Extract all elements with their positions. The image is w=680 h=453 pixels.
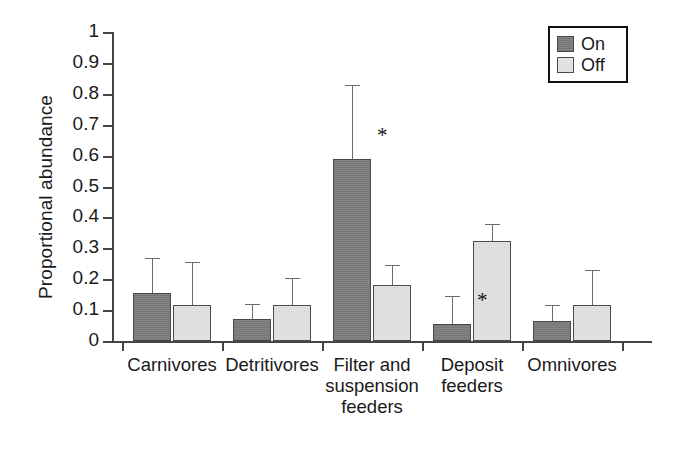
x-axis-tick [122,342,124,351]
legend-item-off: Off [557,54,619,75]
legend: On Off [548,26,628,83]
y-axis-tick-label: 0.6 [73,144,99,166]
y-axis-tick [103,279,112,281]
error-bar-cap [245,304,260,305]
x-axis-category-label: Carnivores [118,354,226,375]
error-bar-cap [185,262,200,263]
error-bar-line [552,305,553,320]
x-axis-tick [422,342,424,351]
legend-item-on: On [557,33,619,54]
error-bar-line [252,304,253,319]
x-axis-category-label-line: Omnivores [518,354,626,375]
x-axis-category-label-line: Detritivores [218,354,326,375]
x-axis-category-label-line: Carnivores [118,354,226,375]
y-axis-tick [103,125,112,127]
significance-asterisk: * [477,290,488,311]
y-axis-tick [103,248,112,250]
error-bar-line [192,262,193,305]
x-axis-category-label: Detritivores [218,354,326,375]
y-axis-tick [103,32,112,34]
y-axis-tick-label: 0 [88,329,99,351]
y-axis-tick-label: 0.1 [73,298,99,320]
x-axis-category-label: Omnivores [518,354,626,375]
chart-figure: Proportional abundance 00.10.20.30.40.50… [0,0,680,453]
error-bar-cap [385,265,400,266]
bar [433,324,471,341]
bar [273,305,311,341]
x-axis-category-label-line: suspension [318,375,426,396]
x-axis-tick [622,342,624,351]
y-axis-tick [103,217,112,219]
y-axis-tick [103,187,112,189]
x-axis-tick [322,342,324,351]
y-axis-line [112,32,114,342]
error-bar-line [452,296,453,324]
y-axis-tick-label: 0.7 [73,113,99,135]
legend-swatch-on-icon [557,36,574,52]
error-bar-cap [445,296,460,297]
bar [573,305,611,341]
error-bar-line [392,265,393,285]
error-bar-line [352,85,353,159]
y-axis-tick [103,94,112,96]
error-bar-cap [285,278,300,279]
bar [233,319,271,341]
error-bar-line [492,224,493,241]
error-bar-cap [345,85,360,86]
error-bar-cap [485,224,500,225]
error-bar-line [292,278,293,306]
error-bar-line [592,270,593,306]
y-axis-tick-label: 0.3 [73,236,99,258]
x-axis-category-label: Filter andsuspensionfeeders [318,354,426,417]
y-axis-tick-label: 0.5 [73,175,99,197]
plot-area: 00.10.20.30.40.50.60.70.80.91 ** Carnivo… [112,32,612,341]
legend-swatch-off-icon [557,57,574,73]
x-axis-category-label-line: Filter and [318,354,426,375]
significance-asterisk: * [377,125,388,146]
error-bar-cap [585,270,600,271]
y-axis-tick [103,310,112,312]
x-axis-tick [222,342,224,351]
x-axis-category-label-line: feeders [418,375,526,396]
y-axis-tick [103,63,112,65]
bar [173,305,211,341]
bar [533,321,571,341]
bar [373,285,411,341]
bar [333,159,371,341]
y-axis-tick-label: 0.2 [73,267,99,289]
y-axis-tick-label: 0.4 [73,205,99,227]
x-axis-category-label: Depositfeeders [418,354,526,396]
error-bar-cap [145,258,160,259]
y-axis-title: Proportional abundance [35,47,57,347]
error-bar-cap [545,305,560,306]
y-axis-tick-label: 0.8 [73,82,99,104]
y-axis-tick-label: 0.9 [73,51,99,73]
y-axis-tick-label: 1 [88,20,99,42]
y-axis-tick [103,156,112,158]
legend-label-off: Off [581,56,605,74]
x-axis-category-label-line: feeders [318,396,426,417]
x-axis-category-label-line: Deposit [418,354,526,375]
legend-label-on: On [581,35,605,53]
error-bar-line [152,258,153,294]
bar [133,293,171,341]
x-axis-line [112,341,652,343]
y-axis-tick [103,341,112,343]
x-axis-tick [522,342,524,351]
